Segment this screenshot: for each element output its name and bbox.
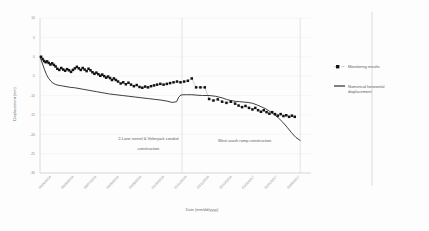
plot-annotation-text: West arash ramp construction — [218, 138, 271, 143]
data-point-marker — [159, 83, 162, 86]
data-point-marker — [212, 99, 215, 102]
data-point-marker — [282, 115, 285, 118]
data-point-marker — [254, 107, 257, 110]
y-tick-label: 5 — [33, 36, 35, 40]
x-tick-label: 06/05/2016 — [60, 175, 74, 190]
data-point-marker — [288, 116, 291, 119]
data-point-marker — [176, 80, 179, 83]
x-tick-label: 04/04/2016 — [38, 175, 52, 190]
data-point-marker — [195, 86, 198, 89]
data-point-marker — [191, 77, 194, 80]
x-tick-label: 01/11/2016 — [174, 175, 188, 190]
data-point-marker — [260, 111, 263, 114]
data-point-marker — [169, 82, 172, 85]
data-point-marker — [208, 98, 211, 101]
x-axis-title: Date (mm/dd/yyyy) — [186, 207, 219, 212]
data-point-marker — [119, 82, 122, 85]
data-point-marker — [234, 102, 237, 105]
y-tick-label: -5 — [32, 74, 35, 78]
chart-legend: Monitoring results Numerical horizontal … — [334, 64, 385, 94]
x-tick-labels: 04/04/201606/05/201606/07/201604/08/2016… — [38, 175, 301, 190]
x-tick-label: 01/02/2017 — [241, 175, 255, 190]
data-point-marker — [251, 108, 254, 111]
data-point-marker — [130, 83, 133, 86]
data-point-marker — [262, 109, 265, 112]
x-tick-label: 02/03/2017 — [286, 175, 300, 190]
monitoring-result-markers — [40, 56, 296, 119]
data-point-marker — [221, 100, 224, 103]
data-point-marker — [166, 83, 169, 86]
y-tick-label: -15 — [30, 113, 35, 117]
x-tick-label: 04/08/2016 — [106, 175, 120, 190]
data-point-marker — [115, 79, 118, 82]
data-point-marker — [277, 114, 280, 117]
data-point-marker — [138, 86, 141, 89]
data-point-marker — [141, 87, 144, 90]
x-tick-label: 31/01/2017 — [264, 175, 278, 190]
plot-annotations: 2-Lane tunnel & Velenjack conduitconstru… — [118, 136, 271, 150]
data-point-marker — [40, 56, 43, 59]
data-point-marker — [244, 105, 247, 108]
data-point-marker — [85, 70, 88, 73]
data-point-marker — [187, 80, 190, 83]
y-tick-label: -30 — [30, 171, 35, 175]
data-point-marker — [150, 85, 153, 88]
data-point-marker — [271, 111, 274, 114]
data-point-marker — [127, 81, 130, 84]
data-point-marker — [156, 83, 159, 86]
plot-annotation-text: 2-Lane tunnel & Velenjack conduit — [118, 136, 179, 141]
data-point-marker — [117, 80, 120, 83]
gridlines — [40, 18, 311, 173]
data-point-marker — [125, 83, 128, 86]
data-point-marker — [257, 109, 260, 112]
plot-annotation-text: construction — [138, 146, 160, 151]
data-point-marker — [147, 86, 150, 89]
y-tick-label: 10 — [31, 16, 35, 20]
x-tick-label: 02/11/2016 — [196, 175, 210, 190]
data-point-marker — [237, 104, 240, 107]
y-tick-label: 0 — [33, 55, 35, 59]
data-point-marker — [204, 86, 207, 89]
data-point-marker — [217, 98, 220, 101]
data-point-marker — [133, 85, 136, 88]
data-point-marker — [162, 83, 165, 86]
monitoring-connector-line — [41, 57, 295, 117]
data-point-marker — [172, 81, 175, 84]
data-point-marker — [291, 114, 294, 117]
data-point-marker — [54, 65, 57, 68]
data-point-marker — [144, 85, 147, 88]
data-point-marker — [293, 116, 296, 119]
data-point-marker — [241, 106, 244, 109]
data-point-marker — [122, 81, 125, 84]
data-point-marker — [274, 113, 277, 116]
y-tick-labels: 1050-5-10-15-20-25-30 — [30, 16, 35, 175]
data-point-marker — [179, 81, 182, 84]
x-tick-label: 02/12/2016 — [219, 175, 233, 190]
data-point-marker — [279, 113, 282, 116]
data-point-marker — [225, 102, 228, 105]
data-point-marker — [153, 84, 156, 87]
y-axis-title: Displacement (mm) — [12, 86, 17, 120]
data-point-marker — [248, 107, 251, 110]
x-tick-label: 01/10/2016 — [151, 175, 165, 190]
displacement-chart: 1050-5-10-15-20-25-30 04/04/201606/05/20… — [0, 0, 429, 231]
data-point-marker — [183, 80, 186, 83]
data-point-marker — [285, 114, 288, 117]
legend-label-numerical: Numerical horizontal — [348, 84, 385, 89]
y-tick-label: -25 — [30, 152, 35, 156]
legend-label-numerical-cont: displacement — [348, 89, 372, 94]
legend-label-monitoring: Monitoring results — [348, 64, 380, 69]
data-point-marker — [135, 84, 138, 87]
y-tick-label: -10 — [30, 94, 35, 98]
x-tick-label: 06/07/2016 — [83, 175, 97, 190]
y-tick-label: -20 — [30, 133, 35, 137]
chart-figure: 1050-5-10-15-20-25-30 04/04/201606/05/20… — [0, 0, 429, 231]
x-tick-label: 04/09/2016 — [128, 175, 142, 190]
data-point-marker — [199, 86, 202, 89]
data-point-marker — [265, 111, 268, 114]
data-point-marker — [268, 112, 271, 115]
data-point-marker — [230, 100, 233, 103]
